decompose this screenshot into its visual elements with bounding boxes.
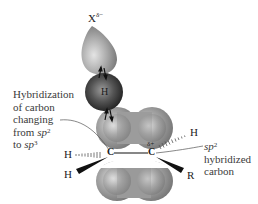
left-annotation-line2: of carbon <box>13 101 74 114</box>
x-partial-charge: δ− <box>96 11 103 19</box>
x-atom-label: Xδ− <box>88 12 103 24</box>
left-annotation-line4: from sp2 <box>13 126 74 139</box>
from-text: from <box>13 126 37 138</box>
h-bridge-label: H <box>101 86 108 97</box>
sp-text: sp <box>24 138 34 150</box>
sp-text: sp <box>37 126 47 138</box>
sp-text: sp <box>204 140 214 152</box>
x-lobe <box>82 26 118 74</box>
right-annotation-line1: sp2 <box>204 140 251 153</box>
x-symbol: X <box>88 12 96 24</box>
sup-2: 2 <box>47 127 51 135</box>
c-right-partial-charge: δ+ <box>147 140 154 148</box>
right-annotation: sp2 hybridized carbon <box>204 140 251 178</box>
sup-3: 3 <box>34 139 38 147</box>
left-annotation-line5: to sp3 <box>13 138 74 151</box>
left-annotation-line1: Hybridization <box>13 88 74 101</box>
left-annotation-line3: changing <box>13 113 74 126</box>
sup-2: 2 <box>214 141 218 149</box>
left-annotation: Hybridization of carbon changing from sp… <box>13 88 74 151</box>
left-hashed-bond <box>76 152 100 158</box>
r-right-wedge-label: R <box>187 169 194 181</box>
h-right-hashed-label: H <box>190 126 198 138</box>
right-annotation-line2: hybridized <box>204 153 251 166</box>
orbital-diagram: Xδ− H C C δ+ H H H R Hybridization of ca… <box>0 0 258 204</box>
c-left-label: C <box>107 146 114 157</box>
to-text: to <box>13 138 24 150</box>
right-annotation-line3: carbon <box>204 165 251 178</box>
lower-p-orbital <box>96 160 173 201</box>
h-left-wedge-label: H <box>64 168 72 180</box>
